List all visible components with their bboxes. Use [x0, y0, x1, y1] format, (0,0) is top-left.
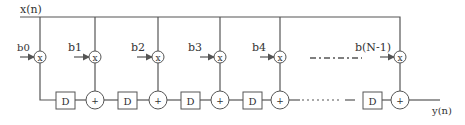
- coef-b2-label: b2: [131, 41, 145, 54]
- svg-text:+: +: [154, 96, 162, 106]
- adder-n: +: [391, 91, 409, 109]
- svg-text:D: D: [123, 96, 131, 107]
- svg-text:D: D: [61, 96, 69, 107]
- adder-1: +: [86, 91, 104, 109]
- delay-block-4: D: [243, 92, 262, 109]
- svg-text:x: x: [397, 53, 402, 63]
- delay-block-1: D: [56, 92, 75, 109]
- svg-text:+: +: [276, 96, 284, 106]
- svg-text:D: D: [248, 96, 256, 107]
- output-label: y(n): [431, 105, 452, 116]
- coef-bN1-label: b(N-1): [355, 41, 391, 54]
- svg-text:+: +: [91, 96, 99, 106]
- svg-text:x: x: [155, 53, 160, 63]
- coef-b4-label: b4: [252, 41, 266, 54]
- svg-text:D: D: [368, 96, 376, 107]
- multiplier-n1: x: [394, 51, 406, 63]
- svg-text:x: x: [217, 53, 222, 63]
- adder-3: +: [211, 91, 229, 109]
- svg-text:+: +: [216, 96, 224, 106]
- coef-b1-label: b1: [68, 41, 82, 54]
- coef-b3-label: b3: [188, 41, 202, 54]
- coef-b0-label: b0: [17, 42, 30, 53]
- delay-block-2: D: [118, 92, 137, 109]
- svg-text:x: x: [92, 53, 97, 63]
- svg-text:D: D: [186, 96, 194, 107]
- adder-2: +: [149, 91, 167, 109]
- svg-text:x: x: [37, 53, 42, 63]
- multiplier-2: x: [152, 51, 164, 63]
- multiplier-1: x: [89, 51, 101, 63]
- multiplier-4: x: [274, 51, 286, 63]
- delay-block-n: D: [363, 92, 382, 109]
- input-label: x(n): [20, 3, 42, 16]
- multiplier-3: x: [214, 51, 226, 63]
- svg-text:+: +: [396, 96, 404, 106]
- multiplier-0: x: [34, 51, 46, 63]
- fir-filter-diagram: x(n) b0 b1 b2 b3 b4 b(N-1) x x x x x x: [0, 0, 465, 125]
- svg-text:x: x: [277, 53, 282, 63]
- delay-block-3: D: [181, 92, 200, 109]
- adder-4: +: [271, 91, 289, 109]
